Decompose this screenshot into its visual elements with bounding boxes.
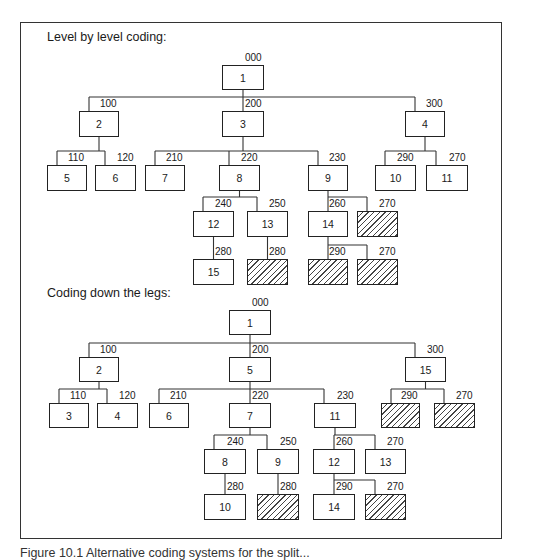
tree-node: 8	[204, 449, 246, 474]
node-code: 230	[329, 152, 346, 163]
hatched-empty-node	[247, 259, 288, 285]
node-label: 5	[247, 364, 253, 376]
tree-node: 1	[222, 65, 264, 90]
node-code: 270	[379, 198, 396, 209]
node-code: 280	[280, 481, 297, 492]
node-code: 120	[119, 390, 136, 401]
node-label: 14	[328, 501, 340, 513]
hatched-empty-node	[434, 403, 475, 428]
node-code: 100	[100, 344, 117, 355]
tree-node: 3	[49, 403, 89, 428]
tree-node: 4	[405, 111, 445, 137]
node-label: 9	[275, 456, 281, 468]
tree-node: 12	[193, 211, 234, 237]
node-label: 10	[219, 501, 231, 513]
node-code: 240	[215, 198, 232, 209]
tree-node: 5	[229, 357, 271, 382]
node-code: 290	[401, 390, 418, 401]
node-code: 120	[117, 152, 134, 163]
node-code: 280	[227, 481, 244, 492]
tree-node: 12	[313, 449, 355, 474]
node-label: 12	[328, 456, 340, 468]
node-code: 270	[456, 390, 473, 401]
node-code: 270	[379, 246, 396, 257]
node-label: 12	[208, 218, 220, 230]
node-label: 10	[390, 172, 402, 184]
tree-node: 8	[219, 165, 260, 191]
node-code: 270	[387, 436, 404, 447]
node-label: 7	[247, 410, 253, 422]
tree-node: 9	[308, 165, 348, 191]
node-label: 2	[96, 364, 102, 376]
node-label: 3	[240, 118, 246, 130]
tree-node: 14	[308, 211, 348, 237]
tree-node: 13	[247, 211, 288, 237]
node-label: 5	[64, 172, 70, 184]
hatched-empty-node	[257, 494, 299, 520]
hatched-empty-node	[365, 494, 406, 520]
node-code: 260	[329, 198, 346, 209]
node-label: 2	[96, 118, 102, 130]
node-label: 9	[325, 172, 331, 184]
node-code: 220	[241, 152, 258, 163]
node-label: 15	[420, 364, 432, 376]
node-label: 8	[222, 456, 228, 468]
tree-node: 1	[229, 310, 271, 335]
node-code: 280	[215, 246, 232, 257]
tree-node: 15	[405, 357, 446, 382]
node-label: 15	[208, 266, 220, 278]
node-code: 260	[336, 436, 353, 447]
hatched-empty-node	[357, 211, 398, 237]
node-code: 230	[337, 390, 354, 401]
tree-node: 2	[79, 111, 119, 137]
tree-node: 2	[79, 357, 119, 382]
tree-node: 5	[47, 165, 87, 191]
node-code: 110	[70, 390, 86, 401]
node-label: 13	[380, 456, 392, 468]
node-label: 6	[113, 172, 119, 184]
node-code: 240	[227, 436, 244, 447]
tree-node: 6	[149, 403, 189, 428]
tree-node: 11	[426, 165, 468, 191]
node-code: 210	[170, 390, 187, 401]
node-label: 11	[442, 172, 453, 184]
node-code: 300	[426, 98, 443, 109]
tree-node: 11	[314, 403, 356, 428]
node-label: 1	[240, 72, 246, 84]
hatched-empty-node	[381, 403, 420, 428]
node-label: 8	[237, 172, 243, 184]
node-code: 300	[427, 344, 444, 355]
node-label: 13	[262, 218, 274, 230]
node-code: 250	[269, 198, 286, 209]
bottom-section-title: Coding down the legs:	[47, 286, 171, 300]
node-code: 210	[166, 152, 183, 163]
node-label: 4	[115, 410, 121, 422]
tree-node: 7	[145, 165, 185, 191]
hatched-empty-node	[357, 259, 398, 285]
node-label: 7	[162, 172, 168, 184]
figure-caption: Figure 10.1 Alternative coding systems f…	[20, 546, 310, 560]
node-label: 4	[422, 118, 428, 130]
node-code: 290	[329, 246, 346, 257]
hatched-empty-node	[308, 259, 348, 285]
node-code: 110	[68, 152, 84, 163]
tree-node: 3	[222, 111, 264, 137]
node-code: 270	[449, 152, 466, 163]
node-code: 250	[280, 436, 297, 447]
node-code: 280	[269, 246, 286, 257]
node-code: 100	[100, 98, 117, 109]
node-label: 3	[66, 410, 72, 422]
node-label: 6	[166, 410, 172, 422]
tree-node: 10	[375, 165, 416, 191]
top-section-title: Level by level coding:	[47, 30, 167, 44]
tree-node: 15	[193, 259, 234, 285]
tree-node: 9	[257, 449, 299, 474]
tree-node: 13	[365, 449, 406, 474]
node-code: 200	[245, 98, 262, 109]
node-code: 220	[252, 390, 269, 401]
node-label: 11	[330, 410, 341, 422]
tree-node: 7	[229, 403, 271, 428]
node-code: 000	[252, 297, 269, 308]
node-code: 290	[397, 152, 414, 163]
node-code: 270	[387, 481, 404, 492]
